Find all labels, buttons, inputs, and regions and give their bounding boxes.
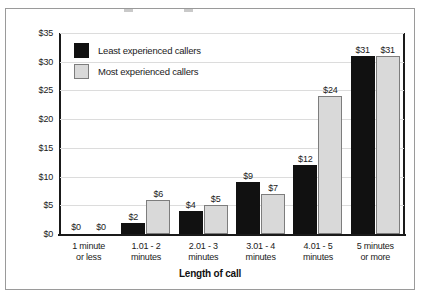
bar-value-label: $24: [323, 85, 337, 95]
x-axis-line: [58, 234, 406, 236]
y-axis-tick-label: $25: [39, 85, 53, 95]
chart-figure: $0$5$10$15$20$25$30$35 $0$0$2$6$4$5$9$7$…: [5, 8, 415, 290]
bar-value-label: $31: [355, 45, 369, 55]
y-axis-tick-label: $10: [39, 172, 53, 182]
x-axis-category-label-line: minutes: [289, 252, 346, 263]
x-axis-category-label-line: 5 minutes: [347, 241, 404, 252]
chart-legend: Least experienced callers Most experienc…: [74, 42, 201, 84]
bar-group: $31$31: [347, 33, 404, 234]
bar-value-label: $31: [380, 45, 394, 55]
legend-swatch-least-experienced: [74, 43, 89, 58]
bar: $6: [146, 200, 170, 234]
x-axis-category-label-line: 1.01 - 2: [117, 241, 174, 252]
bar: $12: [293, 165, 317, 234]
bar-group: $9$7: [232, 33, 289, 234]
legend-label-least-experienced: Least experienced callers: [98, 45, 201, 56]
y-axis-tick-label: $35: [39, 28, 53, 38]
x-axis-category-label-line: 1 minute: [60, 241, 117, 252]
bar-value-label: $4: [186, 200, 196, 210]
x-axis-category-label: 2.01 - 3minutes: [175, 241, 232, 263]
bar: $2: [121, 223, 145, 234]
bar-value-label: $5: [211, 194, 221, 204]
x-axis-category-label: 4.01 - 5minutes: [289, 241, 346, 263]
bar: $4: [179, 211, 203, 234]
y-axis-tick-label: $30: [39, 57, 53, 67]
bar: $5: [204, 205, 228, 234]
x-axis-category-label-line: 2.01 - 3: [175, 241, 232, 252]
x-axis-category-label: 5 minutesor more: [347, 241, 404, 263]
y-axis-tick-label: $20: [39, 114, 53, 124]
bar-value-label: $9: [243, 171, 253, 181]
x-axis-category-label-line: or less: [60, 252, 117, 263]
bar-value-label: $0: [96, 222, 106, 232]
x-axis-category-label: 1 minuteor less: [60, 241, 117, 263]
y-axis-tick-label: $15: [39, 143, 53, 153]
legend-label-most-experienced: Most experienced callers: [98, 66, 198, 77]
y-axis-tick-label: $0: [43, 229, 53, 239]
legend-item-most-experienced: Most experienced callers: [74, 63, 201, 80]
y-axis-tick-label: $5: [43, 200, 53, 210]
bar-value-label: $6: [154, 189, 164, 199]
bar-value-label: $2: [129, 212, 139, 222]
x-axis-category-label: 3.01 - 4minutes: [232, 241, 289, 263]
x-axis-category-label-line: 4.01 - 5: [289, 241, 346, 252]
bar-value-label: $7: [268, 183, 278, 193]
bar-value-label: $0: [71, 222, 81, 232]
x-axis-title: Length of call: [6, 268, 414, 279]
legend-swatch-most-experienced: [74, 64, 89, 79]
x-axis-category-label: 1.01 - 2minutes: [117, 241, 174, 263]
x-axis-category-label-line: minutes: [117, 252, 174, 263]
bar: $24: [318, 96, 342, 234]
bar-group: $12$24: [289, 33, 346, 234]
bar: $31: [351, 56, 375, 234]
bar-value-label: $12: [298, 154, 312, 164]
page-cut-mark-right: [184, 9, 193, 12]
page-cut-mark-left: [124, 9, 133, 12]
bar: $9: [236, 182, 260, 234]
x-axis-category-label-line: 3.01 - 4: [232, 241, 289, 252]
x-axis-category-label-line: minutes: [175, 252, 232, 263]
legend-item-least-experienced: Least experienced callers: [74, 42, 201, 59]
bar: $7: [261, 194, 285, 234]
x-axis-category-label-line: or more: [347, 252, 404, 263]
x-axis-category-label-line: minutes: [232, 252, 289, 263]
bar: $31: [376, 56, 400, 234]
